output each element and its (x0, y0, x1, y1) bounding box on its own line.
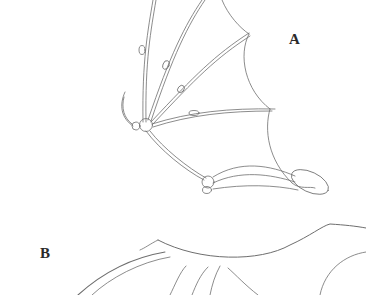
panel-a-wing (122, 0, 333, 200)
panel-label-b: B (40, 245, 50, 262)
panel-label-a: A (289, 31, 300, 48)
bat-wing-drawing (0, 0, 366, 295)
figure-canvas: A B (0, 0, 366, 295)
panel-b-wing (78, 224, 366, 295)
